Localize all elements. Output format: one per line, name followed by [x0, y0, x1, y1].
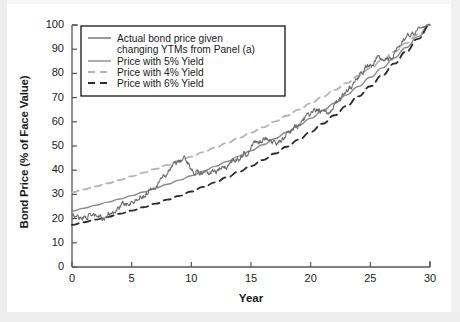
x-tick-label: 30	[417, 272, 443, 284]
legend-label-1: Actual bond price given	[117, 33, 223, 44]
y-tick-label: 100	[38, 18, 64, 30]
y-tick-label: 50	[38, 139, 64, 151]
x-tick-label: 0	[59, 272, 85, 284]
y-tick-label: 20	[38, 212, 64, 224]
legend-label-3: Price with 4% Yield	[117, 67, 204, 78]
y-tick-label: 30	[38, 187, 64, 199]
figure-page: Actual bond price givenchanging YTMs fro…	[0, 0, 460, 322]
y-tick-label: 90	[38, 42, 64, 54]
x-axis-title: Year	[72, 292, 430, 304]
legend-label-4: Price with 6% Yield	[117, 78, 204, 89]
chart-legend: Actual bond price givenchanging YTMs fro…	[81, 26, 285, 96]
y-tick-label: 0	[38, 260, 64, 272]
y-axis-title: Bond Price (% of Face Value)	[18, 42, 30, 262]
y-tick-label: 70	[38, 91, 64, 103]
y-tick-label: 60	[38, 115, 64, 127]
x-tick-label: 15	[238, 272, 264, 284]
legend-label-1-line2: changing YTMs from Panel (a)	[117, 44, 255, 55]
y-tick-label: 40	[38, 163, 64, 175]
bond-price-chart: Actual bond price givenchanging YTMs fro…	[0, 0, 460, 322]
y-tick-label: 10	[38, 236, 64, 248]
x-tick-label: 25	[357, 272, 383, 284]
x-tick-label: 5	[119, 272, 145, 284]
legend-label-2: Price with 5% Yield	[117, 56, 204, 67]
x-tick-label: 20	[298, 272, 324, 284]
y-tick-label: 80	[38, 66, 64, 78]
x-tick-label: 10	[178, 272, 204, 284]
